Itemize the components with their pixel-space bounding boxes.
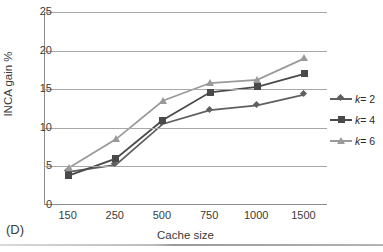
legend-item[interactable]: k= 2	[330, 88, 383, 109]
y-axis-tick-label: 25	[22, 6, 52, 17]
gridline	[45, 89, 327, 90]
legend-triangle-icon	[330, 135, 352, 147]
legend-label: k= 2	[352, 93, 375, 105]
legend-diamond-icon	[330, 93, 352, 105]
y-axis-tick-label: 15	[22, 83, 52, 94]
page-edge-artifact	[0, 244, 383, 246]
y-axis-tick-label: 20	[22, 45, 52, 56]
plot-area	[44, 12, 327, 205]
series-lines	[45, 12, 328, 205]
x-axis-tick-label: 1500	[273, 210, 333, 221]
gridline	[45, 51, 327, 52]
legend-item[interactable]: k= 6	[330, 130, 383, 151]
y-axis-tick-label: 0	[22, 199, 52, 210]
series-line	[69, 58, 305, 168]
chart-legend: k= 2k= 4k= 6	[330, 88, 383, 151]
legend-square-icon	[330, 114, 352, 126]
chart-figure: INCA gain % Cache size (D) k= 2k= 4k= 6 …	[0, 0, 383, 252]
gridline	[45, 128, 327, 129]
y-axis-tick-label: 5	[22, 160, 52, 171]
panel-label: (D)	[6, 222, 24, 237]
legend-item[interactable]: k= 4	[330, 109, 383, 130]
gridline	[45, 166, 327, 167]
y-axis-title: INCA gain %	[2, 24, 14, 144]
legend-label: k= 4	[352, 114, 375, 126]
x-axis-title: Cache size	[44, 229, 327, 241]
y-axis-tick-label: 10	[22, 122, 52, 133]
gridline	[45, 12, 327, 13]
legend-label: k= 6	[352, 135, 375, 147]
